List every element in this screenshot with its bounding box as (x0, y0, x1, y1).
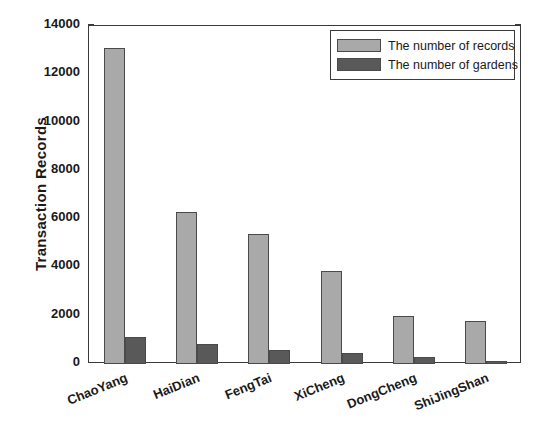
bar-gardens (486, 361, 507, 364)
bar-records (321, 271, 342, 364)
legend-swatch-records (337, 39, 381, 52)
y-tick-label: 2000 (18, 306, 80, 321)
legend-item: The number of gardens (337, 55, 508, 74)
legend: The number of records The number of gard… (330, 30, 515, 80)
legend-item: The number of records (337, 36, 508, 55)
legend-swatch-gardens (337, 58, 381, 71)
legend-label-gardens: The number of gardens (388, 58, 518, 72)
bar-gardens (197, 344, 218, 364)
y-tick-label: 6000 (18, 209, 80, 224)
bar-records (176, 212, 197, 364)
y-tick-label: 0 (18, 354, 80, 369)
bar-records (248, 234, 269, 364)
y-tick-label: 4000 (18, 257, 80, 272)
bar-gardens (125, 337, 146, 364)
y-tick-label: 14000 (18, 16, 80, 31)
legend-label-records: The number of records (388, 39, 514, 53)
y-tick-label: 10000 (18, 113, 80, 128)
bar-records (465, 321, 486, 364)
bar-records (104, 48, 125, 364)
bar-chart-figure: Transaction Records 02000400060008000100… (0, 0, 551, 432)
y-tick-label: 8000 (18, 161, 80, 176)
bar-gardens (269, 350, 290, 364)
y-tick-label: 12000 (18, 64, 80, 79)
bar-gardens (414, 357, 435, 364)
bar-records (393, 316, 414, 364)
bar-gardens (342, 353, 363, 364)
